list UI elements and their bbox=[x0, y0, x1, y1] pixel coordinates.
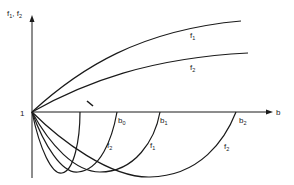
curve-f1-upper bbox=[32, 21, 241, 112]
label-f2-small: f2 bbox=[107, 141, 112, 151]
origin-label: 1 bbox=[20, 109, 25, 118]
label-b2: b2 bbox=[239, 116, 247, 126]
label-f2-large: f2 bbox=[224, 142, 229, 152]
curve-lobe-a bbox=[32, 112, 80, 173]
label-f1-lower: f1 bbox=[150, 141, 155, 151]
y-axis-arrow-icon bbox=[30, 15, 35, 22]
x-axis-arrow-icon bbox=[266, 110, 273, 115]
x-axis-label: b bbox=[276, 108, 281, 117]
curve-f2-large bbox=[32, 112, 236, 177]
label-b0: b0 bbox=[118, 116, 126, 126]
label-f1-upper: f1 bbox=[190, 31, 195, 41]
diagram-canvas: f1, f2 1 b f1 f2 b0 f2 b1 f1 b2 f2 bbox=[0, 0, 294, 185]
curve-f2-upper bbox=[32, 53, 248, 112]
label-f2-upper: f2 bbox=[190, 63, 195, 73]
y-axis-label: f1, f2 bbox=[7, 9, 22, 19]
tick-mark bbox=[87, 101, 93, 106]
label-b1: b1 bbox=[160, 116, 168, 126]
